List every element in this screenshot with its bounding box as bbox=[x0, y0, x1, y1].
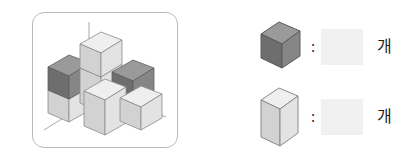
unit-label-light: 개 bbox=[377, 109, 392, 125]
legend-colon-light: : bbox=[307, 110, 319, 125]
legend-row-light: : 개 bbox=[255, 82, 396, 152]
answer-blank-dark[interactable] bbox=[321, 29, 363, 65]
legend-row-dark: : 개 bbox=[255, 12, 396, 82]
cube-stack-figure: .dt { fill: #9a9a9a; stroke: #5e5e5e; st… bbox=[32, 12, 178, 148]
legend-colon-dark: : bbox=[307, 40, 319, 55]
legend: : 개 : 개 bbox=[255, 0, 396, 160]
dark-cube-swatch bbox=[255, 14, 307, 80]
light-cube-swatch bbox=[255, 84, 307, 150]
unit-label-dark: 개 bbox=[377, 39, 392, 55]
worksheet-root: .dt { fill: #9a9a9a; stroke: #5e5e5e; st… bbox=[0, 0, 396, 160]
answer-blank-light[interactable] bbox=[321, 99, 363, 135]
